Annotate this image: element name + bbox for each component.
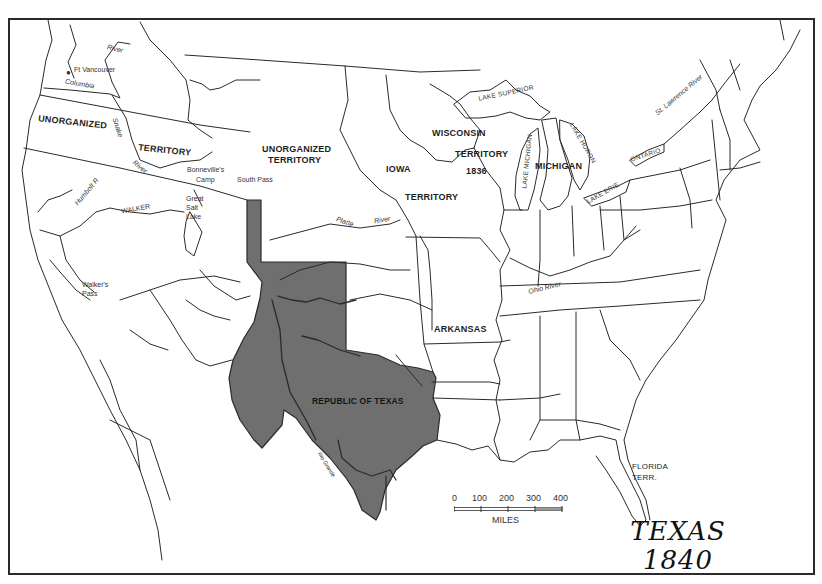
region-label-michigan: MICHIGAN	[535, 162, 582, 171]
place-label-lake: Lake	[186, 213, 201, 220]
map-outline	[0, 0, 822, 584]
region-label-arkansas: ARKANSAS	[434, 325, 487, 334]
place-label-great: Great	[186, 195, 204, 202]
region-label-wisconsin-year: 1836	[466, 167, 487, 176]
place-label-south-pass: South Pass	[237, 176, 273, 183]
region-label-wisconsin: WISCONSIN	[432, 129, 486, 138]
region-label-unorganized-central-territory: TERRITORY	[268, 156, 321, 165]
ft-vancouver-dot: ●	[66, 69, 71, 77]
scale-bar: 0 100 200 300 400 MILES	[452, 494, 572, 530]
scale-tick-100: 100	[472, 494, 487, 503]
place-label-salt: Salt	[186, 204, 198, 211]
scale-tick-200: 200	[499, 494, 514, 503]
region-label-florida-terr: TERR.	[632, 474, 657, 482]
place-label-ft-vancouver: Ft Vancouver	[74, 66, 115, 73]
place-label-pass: Pass	[82, 290, 98, 297]
place-label-walkers: Walker's	[82, 281, 108, 288]
scale-tick-400: 400	[553, 494, 568, 503]
region-label-iowa: IOWA	[386, 165, 411, 174]
scale-ruler	[454, 506, 566, 512]
map-title-line2: 1840	[628, 547, 728, 573]
lake-superior-shape	[454, 80, 550, 120]
map-title-line1: TEXAS	[628, 518, 728, 544]
scale-unit: MILES	[492, 516, 519, 525]
region-label-unorganized-central: UNORGANIZED	[262, 145, 331, 154]
region-label-florida: FLORIDA	[632, 463, 668, 471]
scale-tick-300: 300	[526, 494, 541, 503]
place-label-bonnevilles: Bonneville's	[187, 166, 224, 173]
scale-tick-0: 0	[452, 494, 457, 503]
region-label-republic-of-texas: REPUBLIC OF TEXAS	[312, 397, 404, 406]
region-label-wisconsin-territory: TERRITORY	[455, 150, 508, 159]
region-label-iowa-territory: TERRITORY	[405, 193, 458, 202]
place-label-camp: Camp	[196, 176, 215, 183]
